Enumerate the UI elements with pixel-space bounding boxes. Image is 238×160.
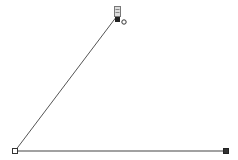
left-endpoint-handle[interactable]: [13, 149, 18, 154]
angle-left-segment[interactable]: [15, 16, 117, 151]
rotate-handle-icon[interactable]: [122, 20, 126, 24]
apex-move-handle-icon[interactable]: [115, 7, 121, 17]
drawing-canvas[interactable]: [0, 0, 238, 160]
right-endpoint-handle[interactable]: [224, 149, 229, 154]
apex-handle[interactable]: [115, 17, 120, 22]
